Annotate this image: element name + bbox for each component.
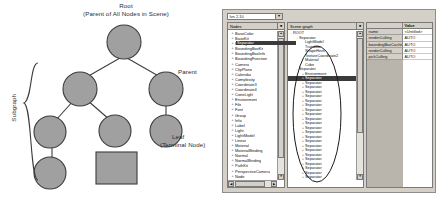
properties-table[interactable]: Valuename<Untitled>renderCullingAUTOboun… xyxy=(367,23,432,60)
tree-item-label: Separator xyxy=(305,180,322,181)
node-child-middle xyxy=(99,115,131,147)
properties-empty-right xyxy=(403,60,432,187)
node-parent-right xyxy=(149,72,183,106)
node-child-left xyxy=(34,116,66,148)
scene-graph-panel: Scene graph ■ -ROOT-SeparatorLightModelT… xyxy=(287,22,364,188)
scroll-right-icon[interactable]: ▶ xyxy=(271,181,277,187)
diagram-root-label-line1: Root xyxy=(60,2,192,10)
scrollbar-thumb[interactable] xyxy=(357,38,363,133)
tree-vertical-scrollbar[interactable]: ▲ ▼ xyxy=(356,31,363,180)
scroll-left-icon[interactable]: ◀ xyxy=(228,181,234,187)
property-value[interactable]: AUTO xyxy=(403,54,432,60)
diagram-root-label: Root (Parent of All Nodes in Scene) xyxy=(60,2,192,17)
nodes-panel: Nodes ■ +BaseColor+BaseKit+Boxing+Boundi… xyxy=(227,22,285,188)
scene-graph-tree[interactable]: -ROOT-SeparatorLightModelTranslateShapeH… xyxy=(288,31,356,180)
scroll-up-icon[interactable]: ▲ xyxy=(357,31,363,37)
version-combo[interactable]: Ivn 2.10 ▼ xyxy=(227,13,283,20)
nodes-panel-header: Nodes ■ xyxy=(228,23,284,30)
scroll-down-icon[interactable]: ▼ xyxy=(278,174,284,180)
nodes-list[interactable]: +BaseColor+BaseKit+Boxing+BoundingBoxKit… xyxy=(228,31,277,180)
nodes-horizontal-scrollbar[interactable]: ◀ ▶ xyxy=(228,180,277,187)
diagram-subgraph-label: Subgraph xyxy=(10,88,18,128)
nodes-vertical-scrollbar[interactable]: ▲ ▼ xyxy=(277,31,284,180)
node-leaf-bottom xyxy=(34,157,66,189)
scene-graph-concept-diagram: Root (Parent of All Nodes in Scene) Pare… xyxy=(0,0,221,201)
node-root xyxy=(107,25,141,59)
node-parent-left xyxy=(63,72,97,106)
version-combo-value: Ivn 2.10 xyxy=(228,14,244,19)
scene-graph-panel-title: Scene graph xyxy=(290,24,313,29)
diagram-parent-label: Parent xyxy=(178,68,197,76)
properties-row[interactable]: pickCullingAUTO xyxy=(367,54,432,60)
scrollbar-thumb[interactable] xyxy=(278,38,284,158)
diagram-root-label-line2: (Parent of All Nodes in Scene) xyxy=(60,10,192,18)
node-shape-square xyxy=(96,152,137,184)
subgraph-brace xyxy=(24,63,38,180)
properties-empty-left xyxy=(367,60,404,187)
diagram-svg xyxy=(0,0,221,201)
diagram-leaf-label-line2: (Terminal Node) xyxy=(160,141,206,149)
scroll-down-icon[interactable]: ▼ xyxy=(357,174,363,180)
scene-graph-panel-menu-icon[interactable]: ■ xyxy=(356,23,363,29)
selected-node-highlight[interactable]: Separator xyxy=(236,41,296,46)
chevron-down-icon[interactable]: ▼ xyxy=(275,14,282,19)
nodes-panel-title: Nodes xyxy=(230,24,242,29)
nodes-panel-menu-icon[interactable]: ■ xyxy=(277,23,284,29)
page-root: Root (Parent of All Nodes in Scene) Pare… xyxy=(0,0,442,201)
scene-graph-panel-header: Scene graph ■ xyxy=(288,23,363,30)
tree-item[interactable]: +Separator xyxy=(288,180,356,181)
hscrollbar-thumb[interactable] xyxy=(235,181,265,187)
diagram-leaf-label-line1: Leaf xyxy=(172,133,184,141)
selected-node-label: Separator xyxy=(236,41,296,46)
properties-panel: Valuename<Untitled>renderCullingAUTOboun… xyxy=(366,22,433,188)
scene-graph-editor-window: Ivn 2.10 ▼ Nodes ■ +BaseColor+BaseKit+Bo… xyxy=(222,9,436,193)
property-name: pickCulling xyxy=(367,54,403,60)
scroll-up-icon[interactable]: ▲ xyxy=(278,31,284,37)
